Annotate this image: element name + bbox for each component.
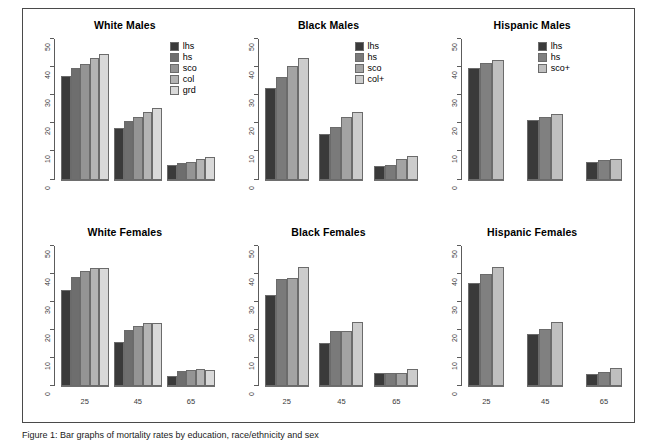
y-axis-tick bbox=[457, 385, 461, 386]
y-axis-tick-label: 10 bbox=[451, 358, 458, 374]
x-axis-tick-label: 65 bbox=[167, 397, 215, 406]
group-baseline bbox=[114, 386, 162, 387]
group-baseline bbox=[374, 180, 418, 181]
y-axis-tick-label: 0 bbox=[451, 180, 458, 196]
group-baseline bbox=[265, 386, 309, 387]
bar bbox=[265, 88, 276, 180]
group-baseline bbox=[61, 386, 109, 387]
bar-groups: 254565 bbox=[61, 246, 215, 387]
legend-item: lhs bbox=[170, 41, 197, 51]
legend: lhshsscocol+ bbox=[355, 41, 385, 84]
y-axis-tick-label: 40 bbox=[247, 67, 254, 83]
bar bbox=[385, 165, 396, 179]
y-axis-tick bbox=[50, 385, 54, 386]
legend-label: grd bbox=[183, 86, 196, 95]
legend-item: col+ bbox=[355, 74, 385, 84]
bar bbox=[61, 290, 71, 386]
bar-group bbox=[468, 39, 504, 180]
legend-item: grd bbox=[170, 85, 197, 95]
bar-group: 65 bbox=[586, 246, 622, 387]
y-axis-tick-label: 0 bbox=[247, 386, 254, 402]
legend-label: lhs bbox=[368, 42, 380, 51]
legend-swatch bbox=[170, 86, 179, 95]
legend-swatch bbox=[170, 64, 179, 73]
bar bbox=[374, 373, 385, 386]
legend-item: col bbox=[170, 74, 197, 84]
bar bbox=[319, 343, 330, 386]
panel-grid: White Males01020304050lhshsscocolgrdBlac… bbox=[23, 9, 634, 422]
y-axis-tick bbox=[50, 273, 54, 274]
plot-area: 01020304050lhshssco+ bbox=[468, 39, 622, 180]
y-axis-tick-label: 30 bbox=[247, 302, 254, 318]
bar bbox=[196, 159, 206, 180]
y-axis-tick-label: 40 bbox=[44, 274, 51, 290]
legend: lhshsscocolgrd bbox=[170, 41, 197, 95]
y-axis-tick bbox=[457, 245, 461, 246]
figure-caption: Figure 1: Bar graphs of mortality rates … bbox=[22, 430, 635, 442]
legend-swatch bbox=[355, 42, 364, 51]
y-axis-tick bbox=[457, 122, 461, 123]
y-axis-tick-label: 20 bbox=[451, 330, 458, 346]
bar bbox=[468, 283, 480, 386]
bar bbox=[71, 68, 81, 180]
legend-swatch bbox=[355, 64, 364, 73]
bar-group: 45 bbox=[114, 246, 162, 387]
y-axis-tick-label: 50 bbox=[451, 39, 458, 55]
bar bbox=[396, 373, 407, 386]
y-axis bbox=[461, 246, 462, 387]
bar bbox=[90, 58, 100, 179]
bar bbox=[287, 278, 298, 386]
legend-label: lhs bbox=[183, 42, 195, 51]
bar bbox=[330, 127, 341, 179]
y-axis-tick bbox=[50, 94, 54, 95]
y-axis-tick-label: 20 bbox=[451, 123, 458, 139]
y-axis-tick bbox=[50, 122, 54, 123]
bar bbox=[61, 76, 71, 179]
y-axis-tick-label: 10 bbox=[451, 151, 458, 167]
bar bbox=[396, 159, 407, 180]
bar bbox=[298, 58, 309, 179]
bar-group: 65 bbox=[167, 246, 215, 387]
y-axis-tick bbox=[457, 38, 461, 39]
bar bbox=[586, 374, 598, 386]
bar-group: 25 bbox=[265, 246, 309, 387]
plot-area: 01020304050254565 bbox=[468, 246, 622, 387]
bar-group bbox=[61, 39, 109, 180]
y-axis-tick bbox=[50, 329, 54, 330]
plot-area: 01020304050lhshsscocol+ bbox=[265, 39, 419, 180]
bar-group: 25 bbox=[61, 246, 109, 387]
bar bbox=[114, 128, 124, 180]
bar-group: 45 bbox=[319, 246, 363, 387]
y-axis-tick bbox=[457, 329, 461, 330]
bar bbox=[352, 112, 363, 179]
y-axis-tick-label: 20 bbox=[247, 330, 254, 346]
bar bbox=[551, 114, 563, 180]
x-axis-tick-label: 45 bbox=[527, 397, 563, 406]
bar bbox=[492, 267, 504, 386]
bar bbox=[177, 163, 187, 179]
y-axis-tick bbox=[457, 273, 461, 274]
bar bbox=[551, 322, 563, 386]
legend-label: col+ bbox=[368, 75, 385, 84]
bar-groups: 254565 bbox=[468, 246, 622, 387]
bar-groups: 254565 bbox=[265, 246, 419, 387]
bar bbox=[341, 117, 352, 179]
chart-panel: White Females01020304050254565 bbox=[23, 216, 227, 423]
y-axis-tick-label: 40 bbox=[451, 67, 458, 83]
bar bbox=[298, 267, 309, 386]
panel-title: Hispanic Males bbox=[430, 19, 634, 31]
bar bbox=[610, 159, 622, 180]
y-axis-tick bbox=[457, 150, 461, 151]
y-axis bbox=[461, 39, 462, 180]
group-baseline bbox=[167, 180, 215, 181]
bar-group: 45 bbox=[527, 246, 563, 387]
y-axis-tick-label: 0 bbox=[44, 386, 51, 402]
y-axis-tick-label: 50 bbox=[44, 39, 51, 55]
bar bbox=[152, 108, 162, 179]
bar bbox=[99, 268, 109, 386]
bar bbox=[374, 166, 385, 179]
bar bbox=[276, 279, 287, 386]
legend-label: lhs bbox=[551, 42, 563, 51]
panel-title: White Females bbox=[23, 226, 227, 238]
legend-item: hs bbox=[355, 52, 385, 62]
